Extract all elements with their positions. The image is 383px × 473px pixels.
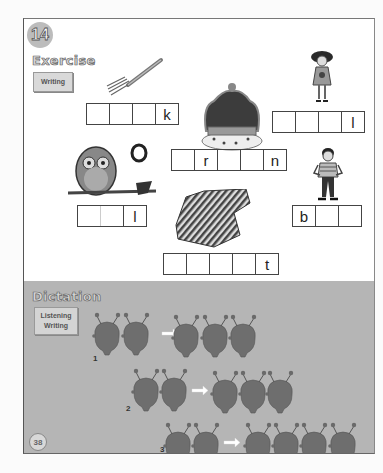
row-number-1: 1 (93, 354, 97, 363)
letter-cell[interactable] (339, 206, 362, 226)
letter-cell[interactable]: k (156, 104, 179, 124)
dictation-panel: Dictation Listening Writing (24, 281, 374, 453)
letter-cell[interactable] (164, 254, 187, 274)
letter-cell[interactable]: n (264, 150, 287, 170)
shirt-picture (174, 189, 254, 249)
dictation-drawings (24, 281, 374, 453)
letter-cell[interactable] (187, 254, 210, 274)
letter-cell[interactable] (218, 150, 241, 170)
letter-cell[interactable]: l (124, 206, 147, 226)
letter-cell[interactable] (110, 104, 133, 124)
word-box-shirt: t (163, 253, 279, 275)
letter-cell[interactable] (296, 112, 319, 132)
letter-cell[interactable]: t (256, 254, 279, 274)
letter-cell[interactable] (133, 104, 156, 124)
letter-cell[interactable] (210, 254, 233, 274)
word-box-girl: l (272, 111, 365, 133)
dictation-row-1 (92, 313, 256, 357)
word-box-owl: l (77, 205, 147, 227)
dictation-row-3 (163, 423, 356, 453)
word-box-boy: b (292, 205, 362, 227)
row-number-2: 2 (126, 404, 130, 413)
page-number: 38 (29, 433, 47, 451)
owl-picture (66, 143, 158, 201)
letter-cell[interactable]: b (293, 206, 316, 226)
letter-cell[interactable] (78, 206, 101, 226)
dictation-row-2 (131, 369, 293, 413)
workbook-page: 14 Exercise Writing k r n (23, 18, 375, 454)
boy-picture (312, 147, 344, 203)
girl-picture (307, 49, 337, 107)
letter-cell[interactable] (319, 112, 342, 132)
fork-picture (106, 57, 164, 97)
word-box-crown: r n (171, 149, 287, 171)
letter-cell[interactable] (273, 112, 296, 132)
letter-cell[interactable]: r (195, 150, 218, 170)
exercise-title: Exercise (32, 53, 96, 68)
word-box-fork: k (86, 103, 179, 125)
crown-picture (200, 81, 266, 151)
letter-cell[interactable] (101, 206, 124, 226)
letter-cell[interactable] (233, 254, 256, 274)
letter-cell[interactable]: l (342, 112, 365, 132)
lesson-number-badge: 14 (27, 22, 53, 48)
skill-tag-writing: Writing (33, 72, 73, 92)
letter-cell[interactable] (172, 150, 195, 170)
letter-cell[interactable] (241, 150, 264, 170)
letter-cell[interactable] (316, 206, 339, 226)
skill-label: Writing (34, 77, 72, 87)
letter-cell[interactable] (87, 104, 110, 124)
row-number-3: 3 (160, 445, 164, 454)
